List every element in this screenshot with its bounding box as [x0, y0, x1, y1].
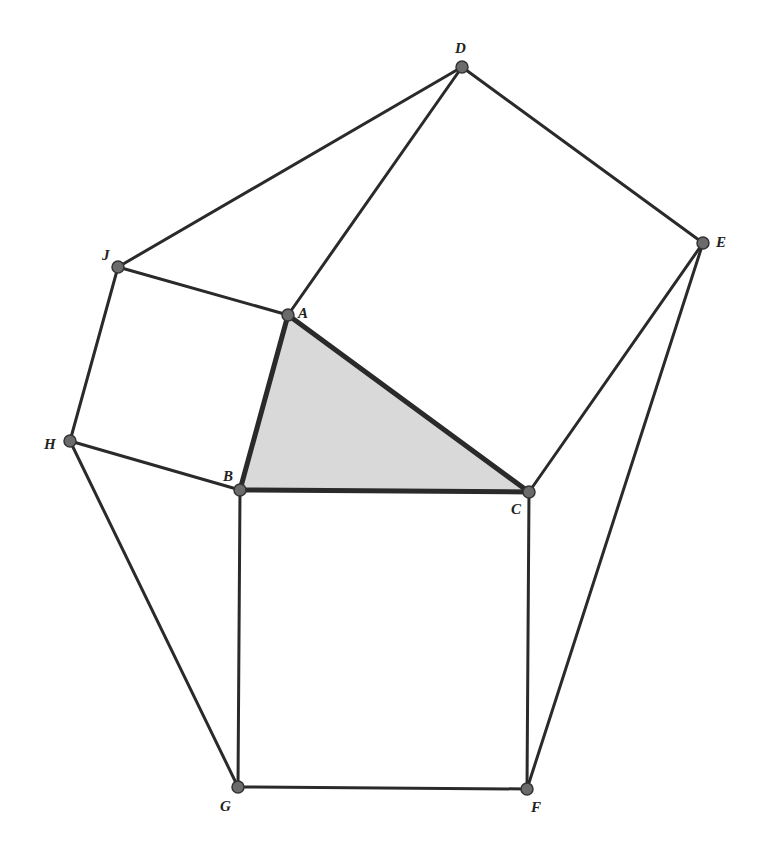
- label-a: A: [297, 305, 308, 321]
- point-j: [112, 261, 124, 273]
- triangle-abc: [240, 315, 529, 492]
- point-b: [234, 484, 246, 496]
- segment-jd: [118, 67, 462, 267]
- label-h: H: [43, 436, 57, 452]
- label-c: C: [511, 501, 522, 517]
- segment-ec: [529, 243, 703, 492]
- segment-ad: [288, 67, 462, 315]
- geometry-diagram: A B C D E F G H J: [0, 0, 771, 857]
- segment-de: [462, 67, 703, 243]
- point-d: [456, 61, 468, 73]
- segment-ef: [527, 243, 703, 789]
- point-a: [282, 309, 294, 321]
- segment-bc: [240, 490, 529, 492]
- label-d: D: [454, 40, 466, 56]
- label-j: J: [101, 247, 110, 263]
- label-f: F: [530, 799, 541, 815]
- point-h: [64, 435, 76, 447]
- label-e: E: [715, 234, 726, 250]
- segment-jh: [70, 267, 118, 441]
- segment-aj: [118, 267, 288, 315]
- segment-hg: [70, 441, 238, 787]
- point-g: [232, 781, 244, 793]
- point-f: [521, 783, 533, 795]
- segment-bg: [238, 490, 240, 787]
- label-g: G: [220, 798, 231, 814]
- label-b: B: [222, 468, 233, 484]
- segment-fc: [527, 492, 529, 789]
- segment-gf: [238, 787, 527, 789]
- segment-hb: [70, 441, 240, 490]
- point-e: [697, 237, 709, 249]
- point-c: [523, 486, 535, 498]
